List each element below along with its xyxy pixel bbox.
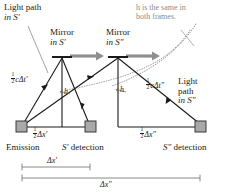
label-half-dx2: 1 2 Δx″ — [140, 127, 156, 139]
label-emission: Emission — [6, 143, 40, 153]
label-half-c-dt2: 1 2 cΔt″ — [146, 78, 164, 90]
light-path-s2-line2: path — [178, 86, 194, 96]
mirror-s1-line1: Mirror — [50, 27, 74, 37]
light-path-s1-line2: in S′ — [4, 12, 20, 22]
light-path-s1-line1: Light path — [4, 2, 41, 12]
fraction-numerator: 1 — [146, 78, 150, 84]
light-path-s1-leader — [28, 26, 48, 73]
light-ray-up-s2 — [22, 58, 118, 126]
half-dx1-body: Δx′ — [37, 130, 47, 139]
light-path-s2-line3: in S″ — [178, 95, 196, 105]
mirror-s2-line2: in S″ — [106, 37, 124, 47]
label-mirror-s2: Mirror in S″ — [106, 28, 130, 47]
label-half-dx1: 1 2 Δx′ — [33, 127, 47, 139]
label-h-note: h is the same in both frames. — [136, 4, 186, 21]
h-note-leader — [181, 30, 194, 46]
fraction-one-half: 1 2 — [11, 72, 15, 84]
velocity-arrow-mirror-s1 — [70, 52, 104, 61]
label-detection-s2: S″ detection — [163, 143, 207, 153]
fraction-one-half: 1 2 — [146, 78, 150, 90]
h-note-line2: both frames. — [136, 12, 176, 21]
label-half-c-dt1: 1 2 cΔt′ — [11, 72, 27, 84]
label-h-right: h — [120, 86, 124, 95]
half-c-dt2-body: cΔt″ — [150, 81, 164, 90]
fraction-denominator: 2 — [33, 133, 37, 140]
fraction-denominator: 2 — [140, 133, 144, 140]
fraction-one-half: 1 2 — [140, 127, 144, 139]
label-light-path-s1: Light path in S′ — [4, 3, 41, 22]
detector-s2 — [195, 121, 206, 132]
mirror-s2-line1: Mirror — [106, 27, 130, 37]
label-dx2-bar: Δx″ — [100, 181, 112, 190]
fraction-numerator: 1 — [33, 127, 37, 133]
fraction-numerator: 1 — [140, 127, 144, 133]
detector-emission — [16, 121, 27, 132]
label-mirror-s1: Mirror in S′ — [50, 28, 74, 47]
detector-s1 — [85, 121, 96, 132]
fraction-numerator: 1 — [11, 72, 15, 78]
label-light-path-s2: Light path in S″ — [178, 77, 198, 106]
label-h-left: h — [64, 88, 68, 97]
label-detection-s1: S′ detection — [62, 143, 104, 153]
velocity-arrow-mirror-s2 — [126, 52, 160, 61]
fraction-one-half: 1 2 — [33, 127, 37, 139]
label-dx1-bar: Δx′ — [47, 157, 57, 166]
fraction-denominator: 2 — [11, 78, 15, 85]
mirror-s1-line2: in S′ — [50, 37, 66, 47]
fraction-denominator: 2 — [146, 84, 150, 91]
light-path-s2-line1: Light — [178, 76, 198, 86]
half-dx2-body: Δx″ — [144, 130, 156, 139]
half-c-dt1-body: cΔt′ — [15, 75, 27, 84]
light-ray-up-s1 — [22, 58, 62, 126]
